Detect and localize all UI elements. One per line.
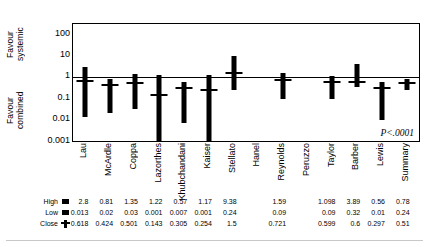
x-tick-label: Lazorthes [154,143,163,183]
plot-area: P<.0001 [72,23,420,142]
data-mark [98,24,123,141]
table-cell: 0.51 [380,218,410,229]
data-mark [271,24,296,141]
close-tick [373,87,390,89]
table-cell: 1.5 [207,218,237,229]
x-tick-label: Coppa [129,143,138,170]
close-tick [349,81,366,83]
table-row: High2.80.811.351.220.571.179.381.591.098… [0,196,429,207]
data-mark [221,24,246,141]
table-row-label: High [28,196,58,207]
table-cell: 1.59 [256,196,286,207]
y-tick-label: 1 [65,71,70,80]
table-cell: 0.721 [256,218,286,229]
range-bar [206,75,211,141]
close-tick [151,94,168,96]
range-bar [157,75,162,141]
table-cell: 0.24 [207,207,237,218]
data-table: High2.80.811.351.220.571.179.381.591.098… [0,196,429,236]
close-tick [275,79,292,81]
x-tick-label: Hanel [252,143,261,167]
range-bar [132,74,137,109]
data-mark [197,24,222,141]
x-tick-label: Summary [401,143,410,182]
pvalue-annotation: P<.0001 [380,128,414,138]
x-tick-label: McArdle [104,143,113,176]
data-mark [345,24,370,141]
y-axis-tick-labels: 1001010.10.010.001 [30,0,70,160]
y-tick-label: 10 [60,50,70,59]
range-bar [83,67,88,117]
close-tick [324,81,341,83]
chart-figure: Favour systemic Favour combined 1001010.… [0,0,429,247]
table-cell: 0.78 [380,196,410,207]
y-tick-label: 0.1 [57,93,70,102]
close-tick [126,82,143,84]
data-mark [172,24,197,141]
range-bar [355,64,360,87]
close-tick [176,87,193,89]
data-mark [295,24,320,141]
table-row-label: Low [28,207,58,218]
x-tick-label: Peruzzo [302,143,311,176]
data-mark [246,24,271,141]
range-bar [404,79,409,90]
plot-inner [73,24,419,141]
table-cell: 0.09 [256,207,286,218]
data-mark [394,24,419,141]
close-tick [102,84,119,86]
y-tick-label: 0.01 [52,114,70,123]
data-mark [122,24,147,141]
x-tick-label: Taylor [327,143,336,167]
footer-divider [6,240,423,241]
close-tick [225,72,242,74]
y-tick-label: 0.001 [47,136,70,145]
table-cell: 9.38 [207,196,237,207]
x-tick-label: Reynolds [277,143,286,181]
close-tick [398,82,415,84]
table-row: Low0.0130.020.030.0010.0070.0010.240.090… [0,207,429,218]
x-tick-label: Lau [79,143,88,158]
range-bar [330,76,335,99]
data-mark [73,24,98,141]
table-row: Close0.6180.4240.5010.1430.3050.2541.50.… [0,218,429,229]
x-axis-category-labels: LauMcArdleCoppaLazorthesKhubchandaniKais… [72,143,420,195]
data-mark [147,24,172,141]
x-tick-label: Barber [351,143,360,170]
y-tick-label: 100 [55,29,70,38]
axis-label-favour-systemic: Favour systemic [6,14,25,74]
table-cell: 0.24 [380,207,410,218]
close-tick [200,89,217,91]
range-bar [281,73,286,100]
data-mark [370,24,395,141]
axis-label-favour-combined: Favour combined [6,78,25,142]
x-tick-label: Stellato [228,143,237,173]
data-mark [320,24,345,141]
x-tick-label: Kaiser [203,143,212,169]
x-tick-label: Khubchandani [178,143,187,201]
close-tick [77,80,94,82]
x-tick-label: Lewis [376,143,385,166]
table-row-label: Close [28,218,58,229]
